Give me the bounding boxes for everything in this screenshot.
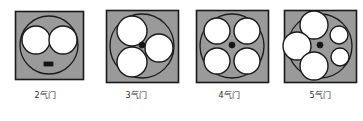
spark-plug-marker [44,62,53,66]
valve-circle-small [331,48,349,66]
valve-diagram-3-valve [91,0,181,92]
valve-diagram-5-valve [275,0,363,92]
valve-panel: 5气门 [275,0,363,121]
spark-plug-marker [317,42,323,48]
valve-circle [300,52,328,80]
valve-circle [117,47,147,77]
valve-arrangement-figure: 2气门 3气门 [0,0,363,121]
valve-circle [234,18,260,44]
spark-plug-marker [139,42,145,48]
valve-panel: 4气门 [184,0,274,121]
valve-circle [234,48,260,74]
valve-circle [117,16,147,46]
panel-caption: 2气门 [0,90,90,101]
valve-circle [22,26,50,54]
panel-caption: 3气门 [91,90,181,101]
valve-diagram-2-valve [0,0,90,92]
valve-panel: 2气门 [0,0,90,121]
valve-circle [145,34,173,62]
valve-diagram-4-valve [184,0,274,92]
valve-circle [49,26,77,54]
valve-circle [204,18,230,44]
valve-panel: 3气门 [91,0,181,121]
spark-plug-marker [229,42,235,48]
panel-caption: 5气门 [275,90,363,101]
valve-circle-small [330,26,348,44]
valve-circle [204,48,230,74]
panel-caption: 4气门 [184,90,274,101]
